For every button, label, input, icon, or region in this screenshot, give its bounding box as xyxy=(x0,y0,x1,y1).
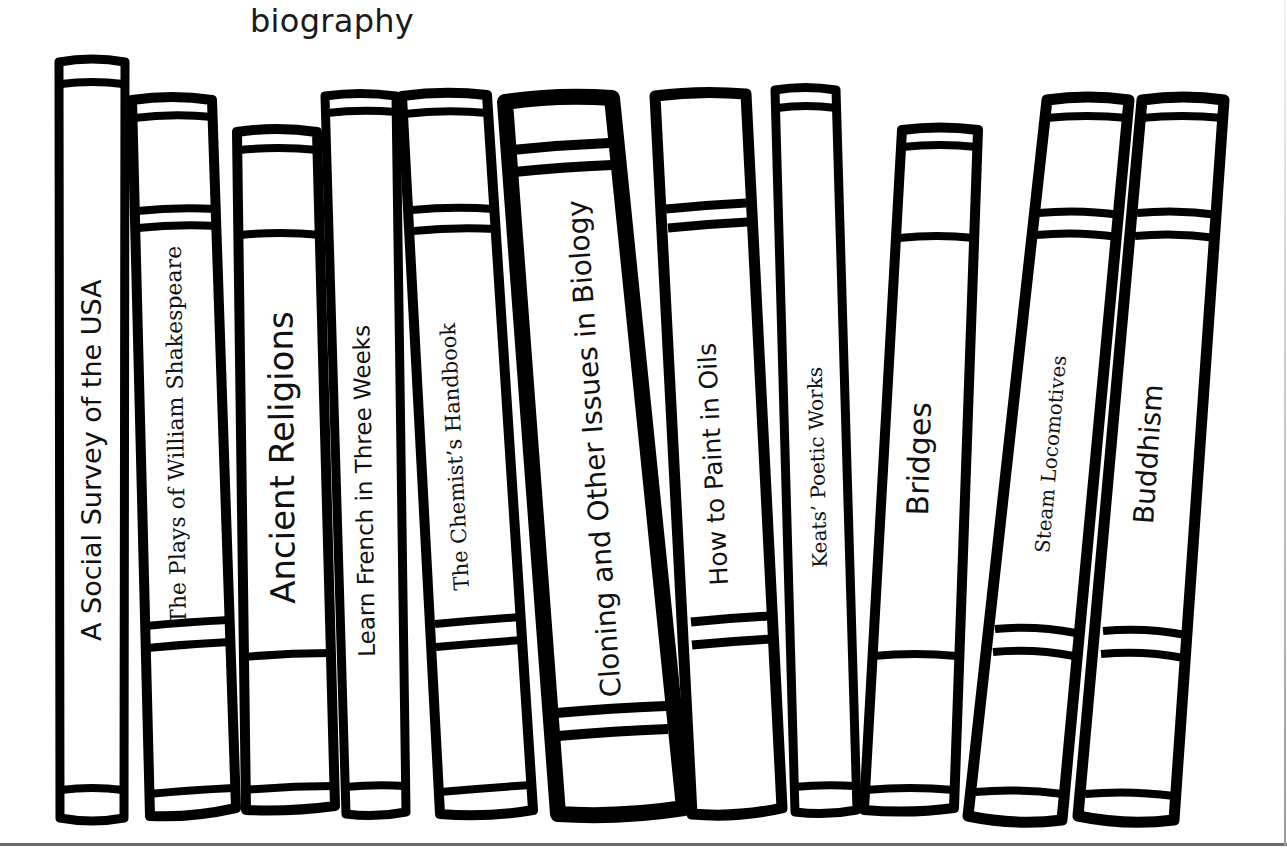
book-title-bridges: Bridges xyxy=(903,402,936,516)
frame-right-edge xyxy=(1284,0,1286,846)
book-title-shakespeare: The Plays of William Shakespeare xyxy=(163,246,190,624)
book-title-learn-french: Learn French in Three Weeks xyxy=(350,325,379,657)
shelf-line xyxy=(0,843,1287,846)
book-title-social-survey: A Social Survey of the USA xyxy=(78,279,105,641)
book-title-keats: Keats’ Poetic Works xyxy=(805,367,830,568)
bookshelf-illustration xyxy=(0,0,1287,862)
book-title-ancient-religions: Ancient Religions xyxy=(263,311,300,604)
